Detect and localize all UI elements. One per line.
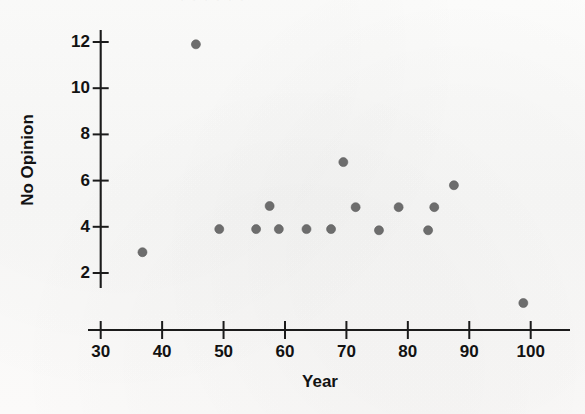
x-tick-label-90: 90 bbox=[460, 342, 479, 362]
y-tick-label-10: 10 bbox=[58, 78, 90, 98]
data-point bbox=[327, 225, 336, 234]
data-points bbox=[138, 40, 528, 308]
scatter-plot-figure: · · · · · · 24681012 30405060708090100 N… bbox=[0, 0, 585, 414]
data-point bbox=[449, 181, 458, 190]
y-axis-title: No Opinion bbox=[18, 114, 38, 206]
x-tick-label-50: 50 bbox=[214, 342, 233, 362]
data-point bbox=[265, 202, 274, 211]
y-tick-label-4: 4 bbox=[58, 217, 90, 237]
data-point bbox=[191, 40, 200, 49]
data-point bbox=[252, 225, 261, 234]
data-point bbox=[430, 203, 439, 212]
y-tick-label-2: 2 bbox=[58, 263, 90, 283]
x-axis-title: Year bbox=[302, 372, 338, 392]
x-tick-label-40: 40 bbox=[153, 342, 172, 362]
y-tick-label-6: 6 bbox=[58, 171, 90, 191]
data-point bbox=[374, 226, 383, 235]
data-point bbox=[302, 225, 311, 234]
data-point bbox=[351, 203, 360, 212]
x-tick-label-60: 60 bbox=[276, 342, 295, 362]
data-point bbox=[519, 299, 528, 308]
x-tick-label-80: 80 bbox=[398, 342, 417, 362]
data-point bbox=[339, 158, 348, 167]
y-tick-label-12: 12 bbox=[58, 32, 90, 52]
data-point bbox=[394, 203, 403, 212]
data-point bbox=[274, 225, 283, 234]
data-point bbox=[138, 248, 147, 257]
x-tick-label-100: 100 bbox=[517, 342, 545, 362]
y-tick-label-8: 8 bbox=[58, 124, 90, 144]
x-tick-label-70: 70 bbox=[337, 342, 356, 362]
x-tick-label-30: 30 bbox=[91, 342, 110, 362]
data-point bbox=[424, 226, 433, 235]
x-axis bbox=[88, 321, 570, 339]
data-point bbox=[215, 225, 224, 234]
y-axis bbox=[93, 30, 109, 288]
